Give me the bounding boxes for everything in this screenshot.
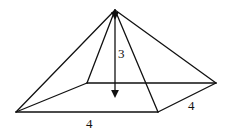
height-label: 3: [118, 46, 125, 61]
lateral-edge-front-left: [16, 10, 115, 112]
pyramid-diagram: 3 4 4: [0, 0, 230, 133]
lateral-edge-back-left: [87, 10, 115, 83]
side-edge-label: 4: [188, 98, 195, 113]
base-right-edge: [158, 83, 216, 112]
base-left-edge: [16, 83, 87, 112]
pyramid-figure: 3 4 4: [0, 0, 230, 133]
front-edge-label: 4: [86, 116, 93, 131]
